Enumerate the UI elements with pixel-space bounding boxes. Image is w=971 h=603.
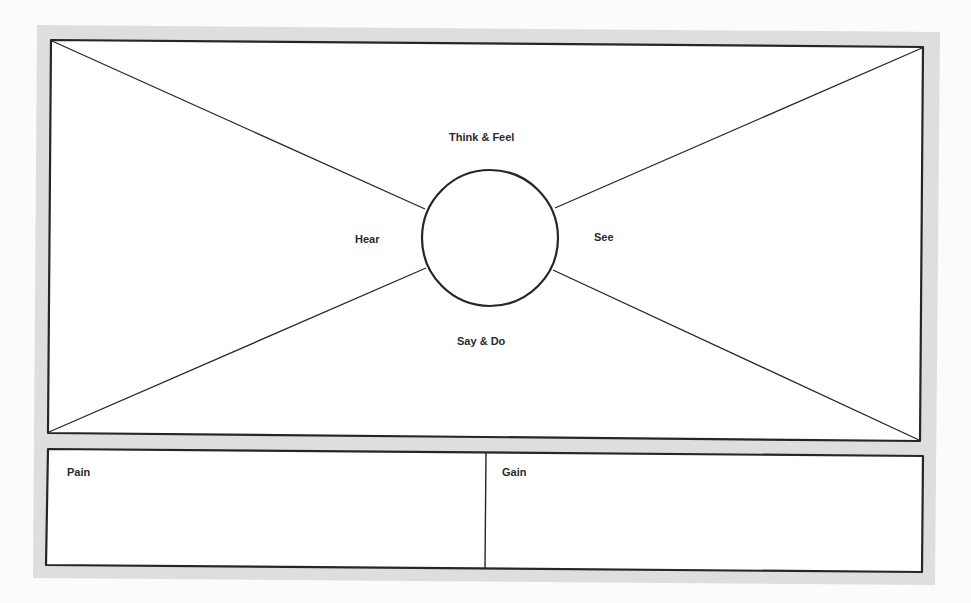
label-say-do: Say & Do <box>457 335 505 347</box>
label-think-feel: Think & Feel <box>449 131 514 143</box>
empathy-map-diagram <box>0 0 971 603</box>
label-see: See <box>594 231 614 243</box>
label-gain: Gain <box>502 466 526 478</box>
label-hear: Hear <box>355 233 379 245</box>
label-pain: Pain <box>67 466 90 478</box>
pain-gain-divider <box>485 452 486 569</box>
center-circle <box>422 170 558 306</box>
